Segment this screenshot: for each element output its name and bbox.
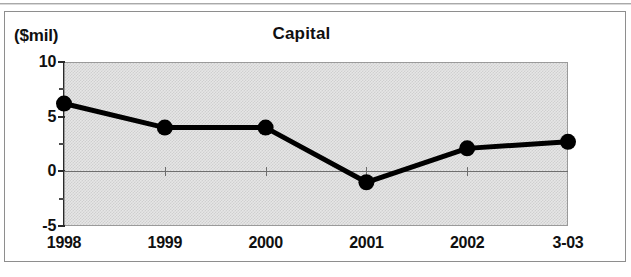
x-axis-tick-label: 2001 xyxy=(331,234,401,252)
zero-line-tick xyxy=(467,167,468,176)
scan-edge-line-top-secondary xyxy=(0,4,631,5)
y-axis-minor-tick xyxy=(59,198,64,200)
y-axis-major-tick xyxy=(58,116,65,118)
zero-line-tick xyxy=(366,167,367,176)
x-axis-tick-label: 3-03 xyxy=(533,234,603,252)
y-axis-tick-label: -5 xyxy=(10,217,56,235)
zero-line-tick xyxy=(266,167,267,176)
plot-area xyxy=(64,62,568,226)
y-axis-minor-tick xyxy=(59,88,64,90)
x-axis-tick-label: 2000 xyxy=(231,234,301,252)
chart-title: Capital xyxy=(0,24,617,44)
y-axis-minor-tick xyxy=(59,143,64,145)
zero-line-tick xyxy=(165,167,166,176)
y-axis-major-tick xyxy=(58,61,65,63)
x-axis-tick-label: 1999 xyxy=(130,234,200,252)
y-axis-tick-label: 5 xyxy=(10,108,56,126)
x-axis-tick-label: 2002 xyxy=(432,234,502,252)
y-axis-major-tick xyxy=(58,225,65,227)
y-axis-tick-label: 0 xyxy=(10,162,56,180)
x-axis-tick-label: 1998 xyxy=(29,234,99,252)
zero-line xyxy=(64,171,568,172)
y-axis-tick-label: 10 xyxy=(10,53,56,71)
plot-background xyxy=(64,62,568,226)
